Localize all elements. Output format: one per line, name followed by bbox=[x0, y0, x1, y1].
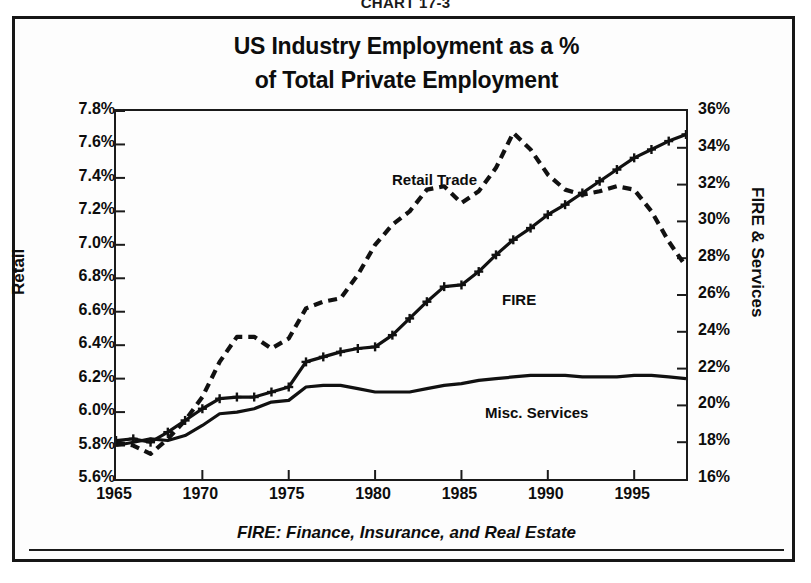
y-axis-right-tick-label: 22% bbox=[698, 358, 758, 376]
series-marker-plus bbox=[336, 347, 345, 356]
x-axis-tick-label: 1995 bbox=[614, 485, 650, 503]
y-axis-left-tick-label: 6.2% bbox=[45, 368, 115, 386]
series-marker-plus bbox=[319, 352, 328, 361]
y-axis-left-tick-label: 6.0% bbox=[45, 401, 115, 419]
chart-canvas bbox=[116, 111, 686, 479]
plot-area bbox=[114, 109, 688, 481]
series-marker-plus bbox=[250, 393, 259, 402]
y-axis-right-tick-label: 20% bbox=[698, 394, 758, 412]
y-axis-left-tick-label: 5.6% bbox=[45, 468, 115, 486]
chart-number: CHART 17-3 bbox=[0, 0, 811, 11]
y-axis-right-tick-label: 36% bbox=[698, 100, 758, 118]
x-axis-tick-label: 1990 bbox=[528, 485, 564, 503]
y-axis-left-tick-label: 7.2% bbox=[45, 200, 115, 218]
footnote-divider bbox=[29, 549, 784, 551]
x-axis-tick-label: 1975 bbox=[269, 485, 305, 503]
y-axis-left-tick-label: 6.4% bbox=[45, 334, 115, 352]
y-axis-right-tick-label: 28% bbox=[698, 247, 758, 265]
y-axis-left-label: Retail bbox=[9, 249, 29, 295]
annotation-misc-services: Misc. Services bbox=[485, 404, 588, 421]
y-axis-left-tick-label: 7.0% bbox=[45, 234, 115, 252]
y-axis-left-tick-label: 6.8% bbox=[45, 267, 115, 285]
x-axis-tick-label: 1965 bbox=[96, 485, 132, 503]
y-axis-left-tick-label: 6.6% bbox=[45, 301, 115, 319]
chart-outer-frame: US Industry Employment as a % of Total P… bbox=[12, 16, 795, 562]
y-axis-right-tick-label: 26% bbox=[698, 284, 758, 302]
footnote-text: FIRE: Finance, Insurance, and Real Estat… bbox=[15, 523, 798, 543]
x-axis-tick-label: 1970 bbox=[183, 485, 219, 503]
x-axis-tick-label: 1980 bbox=[355, 485, 391, 503]
y-axis-left-tick-label: 7.4% bbox=[45, 167, 115, 185]
annotation-retail-trade: Retail Trade bbox=[392, 171, 477, 188]
y-axis-right-tick-label: 32% bbox=[698, 174, 758, 192]
axis-ticks bbox=[116, 111, 686, 479]
annotation-fire: FIRE bbox=[502, 291, 536, 308]
plot-wrapper: Retail FIRE & Services 5.6%5.8%6.0%6.2%6… bbox=[15, 19, 798, 565]
y-axis-right-tick-label: 16% bbox=[698, 468, 758, 486]
y-axis-right-tick-label: 30% bbox=[698, 210, 758, 228]
y-axis-left-tick-label: 5.8% bbox=[45, 435, 115, 453]
series-marker-plus bbox=[353, 344, 362, 353]
series-marker-plus bbox=[267, 388, 276, 397]
series-marker-plus bbox=[232, 393, 241, 402]
y-axis-right-tick-label: 24% bbox=[698, 321, 758, 339]
x-axis-tick-label: 1985 bbox=[442, 485, 478, 503]
y-axis-right-tick-label: 18% bbox=[698, 431, 758, 449]
y-axis-left-tick-label: 7.6% bbox=[45, 133, 115, 151]
y-axis-right-tick-label: 34% bbox=[698, 137, 758, 155]
y-axis-left-tick-label: 7.8% bbox=[45, 100, 115, 118]
